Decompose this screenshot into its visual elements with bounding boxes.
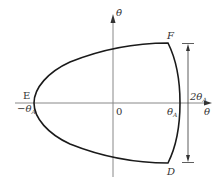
neg-theta-a-sub: A	[31, 108, 35, 115]
dimension-arrow-up-icon	[186, 44, 190, 51]
point-e-label: E	[23, 91, 30, 101]
neg-theta-a-text: −θ	[17, 103, 31, 114]
y-axis-label: θ̇	[116, 8, 122, 18]
two-theta-a-text: 2θ	[190, 91, 202, 102]
theta-dot-axis-arrow-icon	[111, 14, 116, 23]
x-axis-label: θ	[204, 107, 210, 117]
dimension-arrow-down-icon	[186, 155, 190, 162]
theta-a-sub: A	[173, 111, 177, 118]
point-d-label: D	[167, 167, 175, 177]
two-theta-a-sub: A	[202, 96, 206, 103]
origin-label: 0	[116, 107, 122, 117]
dimension-label: 2θA	[190, 92, 207, 103]
point-f-label: F	[167, 31, 174, 41]
point-e-value: −θA	[17, 104, 36, 115]
theta-a-intercept-label: θA	[167, 107, 177, 118]
